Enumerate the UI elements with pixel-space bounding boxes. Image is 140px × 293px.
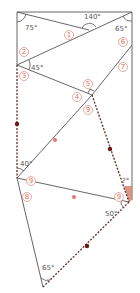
- angle-top-right: 65°: [115, 25, 127, 33]
- highlighted-angle-wedge: [124, 186, 132, 202]
- arc-bottom: [41, 278, 50, 280]
- arc-left-lower: [17, 168, 24, 171]
- arc-top-left: [17, 14, 26, 22]
- right-angle-marker: [88, 89, 94, 93]
- midpoint-dot-diagonal: [53, 138, 57, 142]
- svg-text:2: 2: [22, 48, 26, 56]
- svg-text:5: 5: [86, 80, 90, 88]
- geometry-diagram: 75° 140° 65° 45° 40° ?° 50° 65° 1 2 3 4 …: [0, 0, 140, 293]
- angle-right-bottom: 50°: [105, 210, 117, 218]
- label-5: 5: [84, 80, 93, 89]
- arc-top-mid: [82, 23, 96, 28]
- angle-bottom: 65°: [42, 264, 54, 272]
- svg-text:1: 1: [67, 31, 71, 39]
- label-2: 2: [20, 48, 29, 57]
- svg-text:9: 9: [29, 177, 33, 185]
- label-6: 6: [119, 38, 128, 47]
- arc-top-right: [123, 16, 132, 21]
- label-9-right: 9: [115, 193, 124, 202]
- svg-text:9: 9: [117, 193, 121, 201]
- segment-2-diagonal: [17, 12, 132, 65]
- midpoint-dot-lower: [72, 195, 76, 199]
- midpoint-dot-left: [15, 122, 19, 126]
- label-4: 4: [73, 93, 82, 102]
- svg-text:4: 4: [75, 93, 80, 101]
- label-7: 7: [119, 63, 128, 72]
- label-8: 8: [23, 193, 32, 202]
- svg-text:7: 7: [121, 63, 125, 71]
- angle-right-lower-small: ?°: [122, 177, 129, 185]
- svg-text:9: 9: [86, 106, 90, 114]
- svg-text:8: 8: [25, 193, 29, 201]
- angle-left-mid: 45°: [31, 64, 43, 72]
- angle-top-left: 75°: [25, 24, 37, 32]
- segment-3: [17, 65, 92, 95]
- midpoint-dot-bottom: [85, 244, 89, 248]
- angle-left-lower: 40°: [20, 160, 32, 168]
- label-9-left: 9: [27, 177, 36, 186]
- angle-top-mid: 140°: [84, 13, 101, 21]
- svg-text:6: 6: [121, 38, 126, 46]
- label-1: 1: [65, 31, 74, 40]
- midpoint-dot-right: [108, 147, 112, 151]
- svg-text:3: 3: [22, 72, 26, 80]
- label-3: 3: [20, 72, 29, 81]
- label-9-center: 9: [84, 106, 93, 115]
- arc-left-mid: [29, 60, 30, 70]
